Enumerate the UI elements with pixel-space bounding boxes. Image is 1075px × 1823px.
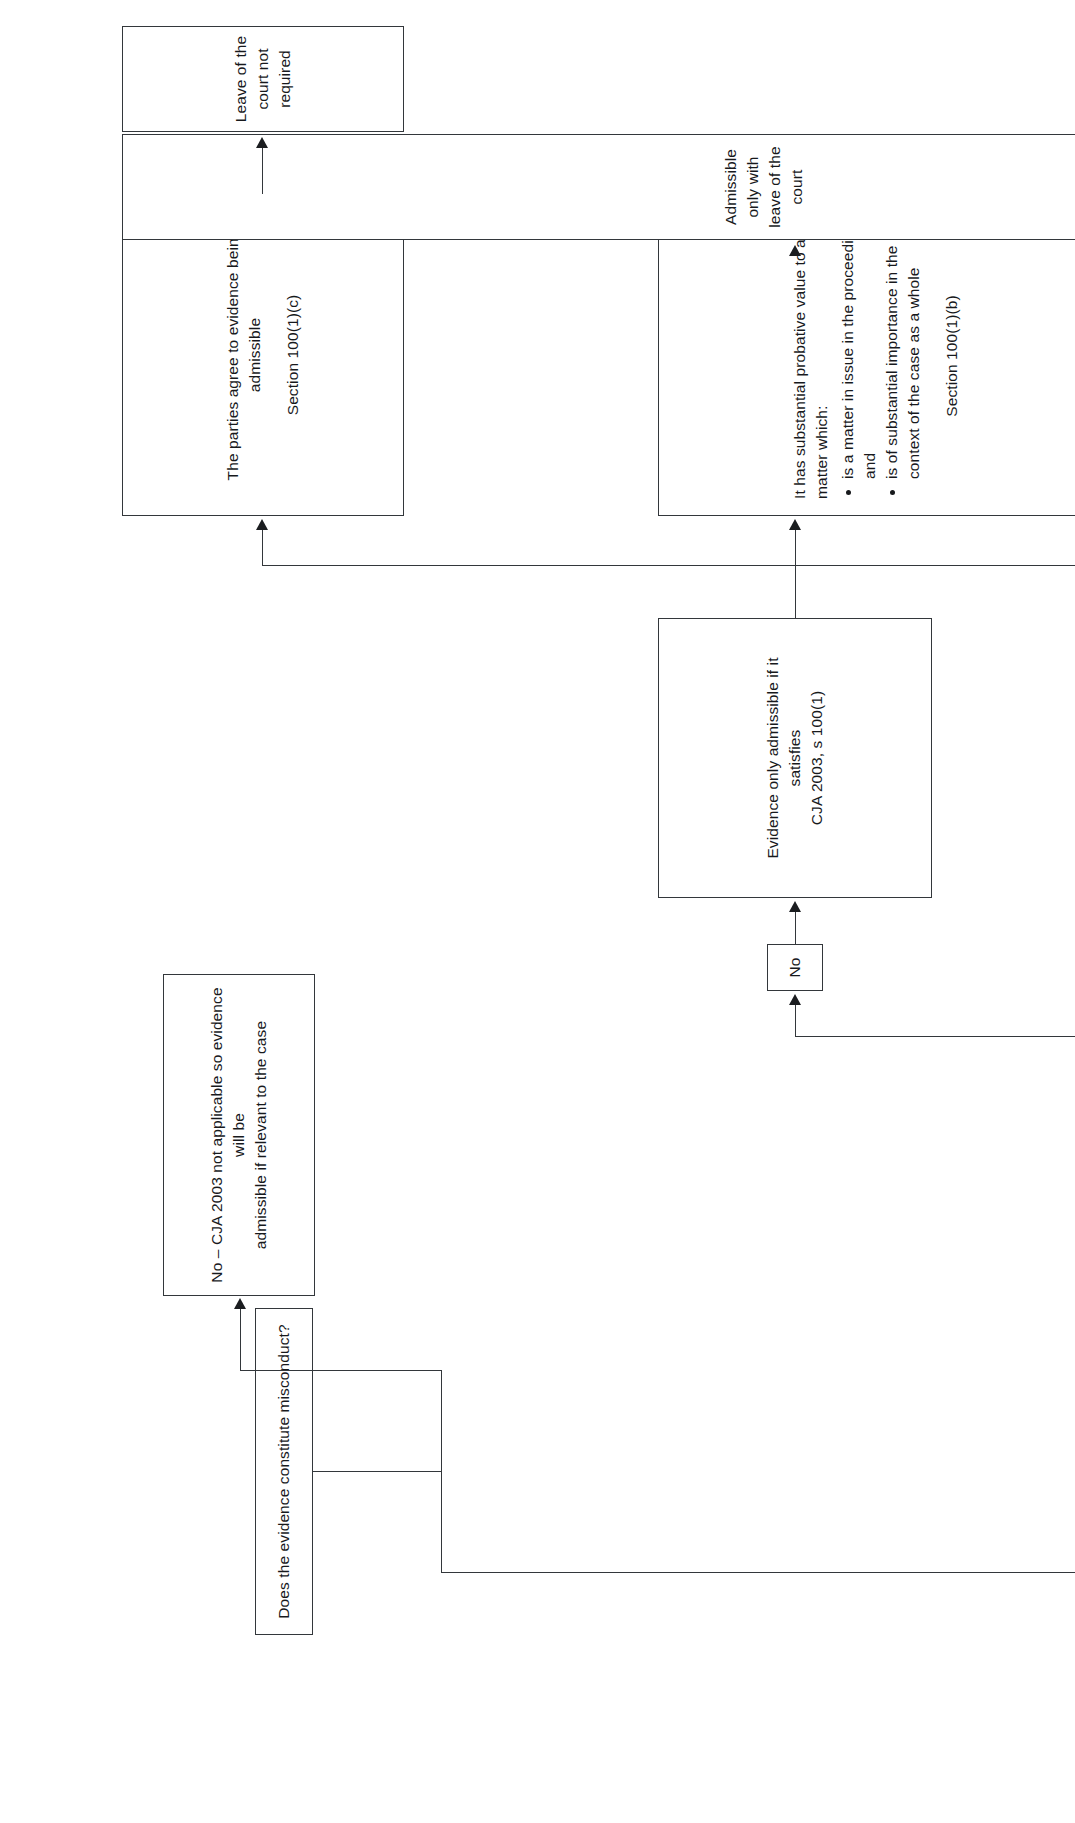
list-item: is a matter in issue in the proceedings … bbox=[837, 213, 881, 479]
node-branch-no-label: No – CJA 2003 not applicable so evidence… bbox=[206, 983, 272, 1287]
node-root-question: Does the evidence constitute misconduct? bbox=[255, 1308, 313, 1635]
node-gateway-intro-label: Evidence only admissible if it satisfies… bbox=[762, 627, 828, 889]
connector-gateway-c-lead bbox=[262, 528, 263, 566]
list-item: is of substantial importance in the cont… bbox=[881, 213, 925, 479]
node-outcome-leave-required-label: Admissible only with leave of the court bbox=[720, 143, 808, 231]
node-gateway-c: The parties agree to evidence being admi… bbox=[122, 194, 404, 516]
node-root-question-label: Does the evidence constitute misconduct? bbox=[273, 1317, 295, 1626]
connector-root-split bbox=[441, 1371, 442, 1573]
connector-to-no-branch bbox=[240, 1370, 442, 1371]
connector-to-yes-branch bbox=[441, 1572, 1075, 1573]
connector-no-to-gateway bbox=[795, 910, 796, 944]
node-outcome-leave-required: Admissible only with leave of the court bbox=[122, 134, 1075, 240]
node-branch-no: No – CJA 2003 not applicable so evidence… bbox=[163, 974, 315, 1296]
node-gateway-intro: Evidence only admissible if it satisfies… bbox=[658, 618, 932, 898]
node-gateway-b-content: It has substantial probative value to a … bbox=[789, 213, 963, 499]
arrowhead-gateway-c bbox=[256, 519, 268, 530]
arrowhead-second-no bbox=[789, 994, 801, 1005]
arrowhead-gateway-intro bbox=[789, 901, 801, 912]
node-gateway-c-content: The parties agree to evidence being admi… bbox=[222, 203, 304, 507]
node-second-no: No bbox=[767, 944, 823, 991]
connector-second-split bbox=[795, 1036, 1075, 1037]
node-gateway-b-caption: Section 100(1)(b) bbox=[941, 213, 963, 499]
arrowhead-to-no-branch bbox=[234, 1298, 246, 1309]
node-gateway-b-bullets: is a matter in issue in the proceedings … bbox=[837, 213, 925, 499]
flowchart-canvas: Does the evidence constitute misconduct?… bbox=[0, 0, 1075, 1823]
arrowhead-outcome-leave-not-required bbox=[256, 137, 268, 148]
connector-no-branch-lead bbox=[240, 1307, 241, 1371]
node-gateway-c-caption: Section 100(1)(c) bbox=[282, 203, 304, 507]
arrowhead-gateway-b bbox=[789, 519, 801, 530]
connector-gateway-split bbox=[262, 565, 1075, 566]
node-second-no-label: No bbox=[784, 953, 806, 982]
node-gateway-b: It has substantial probative value to a … bbox=[658, 196, 1075, 516]
connector-c-to-outcome bbox=[262, 146, 263, 194]
connector-gateway-out bbox=[795, 566, 796, 618]
node-outcome-leave-not-required: Leave of the court not required bbox=[122, 26, 404, 132]
connector-second-no-lead bbox=[795, 1003, 796, 1037]
node-gateway-c-label: The parties agree to evidence being admi… bbox=[222, 203, 266, 507]
connector-gateway-b-lead bbox=[795, 528, 796, 566]
arrowhead-outcome-leave-required-b bbox=[789, 245, 801, 256]
node-outcome-leave-not-required-label: Leave of the court not required bbox=[230, 35, 296, 123]
connector-root-spine bbox=[313, 1471, 441, 1472]
